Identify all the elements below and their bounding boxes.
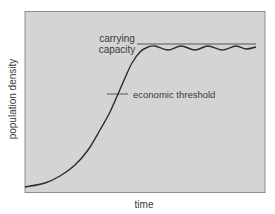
plot-area [25,12,265,193]
population-growth-chart: carrying capacity economic threshold pop… [0,0,275,214]
x-axis-label: time [135,199,154,210]
carrying-capacity-label-line1: carrying [99,33,135,44]
y-axis-label: population density [7,59,18,140]
carrying-capacity-label-line2: capacity [99,44,136,55]
economic-threshold-label: economic threshold [133,89,215,100]
